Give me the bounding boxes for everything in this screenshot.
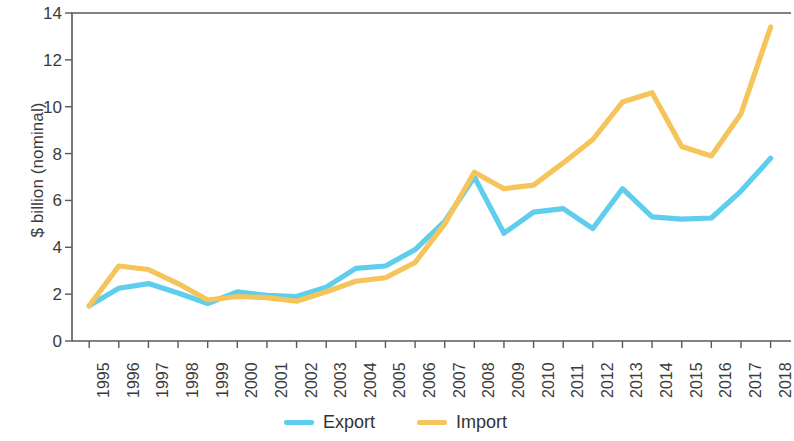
- legend-swatch-icon: [284, 420, 314, 425]
- legend-label: Import: [456, 412, 507, 433]
- y-tick-label: 0: [53, 333, 62, 350]
- x-tick-label: 2017: [748, 362, 764, 398]
- x-tick-label: 2015: [689, 362, 705, 398]
- x-tick-label: 1997: [155, 362, 171, 398]
- legend-swatch-icon: [417, 420, 447, 425]
- x-tick-label: 2001: [274, 362, 290, 398]
- legend-item-import[interactable]: Import: [417, 412, 507, 433]
- series-line-export: [89, 158, 770, 306]
- y-tick-label: 2: [53, 286, 62, 303]
- legend-item-export[interactable]: Export: [284, 412, 375, 433]
- x-tick-label: 2012: [600, 362, 616, 398]
- x-tick-label: 2002: [304, 362, 320, 398]
- x-tick-label: 2006: [422, 362, 438, 398]
- x-tick-label: 1998: [185, 362, 201, 398]
- x-tick-label: 2009: [511, 362, 527, 398]
- x-tick-label: 2004: [363, 362, 379, 398]
- x-tick-label: 2000: [244, 362, 260, 398]
- x-tick-label: 2011: [570, 364, 586, 398]
- x-tick-label: 2018: [778, 362, 794, 398]
- y-tick-label: 10: [43, 98, 62, 115]
- x-tick-label: 1999: [215, 362, 231, 398]
- y-tick-label: 12: [43, 51, 62, 68]
- y-tick-label: 6: [53, 192, 62, 209]
- x-tick-label: 1996: [126, 362, 142, 398]
- y-axis-tick-labels: 02468101214: [18, 0, 62, 441]
- y-tick-label: 8: [53, 145, 62, 162]
- x-tick-label: 2016: [718, 362, 734, 398]
- x-tick-label: 2003: [333, 362, 349, 398]
- x-tick-label: 2010: [541, 362, 557, 398]
- x-tick-label: 2013: [629, 362, 645, 398]
- y-tick-label: 4: [53, 239, 62, 256]
- chart-legend: ExportImport: [0, 412, 791, 433]
- x-tick-label: 2007: [452, 362, 468, 398]
- y-tick-label: 14: [43, 5, 62, 22]
- x-tick-label: 2005: [392, 362, 408, 398]
- x-tick-label: 2014: [659, 362, 675, 398]
- x-tick-label: 2008: [481, 362, 497, 398]
- series-line-import: [89, 27, 770, 306]
- x-tick-label: 1995: [96, 362, 112, 398]
- legend-label: Export: [323, 412, 375, 433]
